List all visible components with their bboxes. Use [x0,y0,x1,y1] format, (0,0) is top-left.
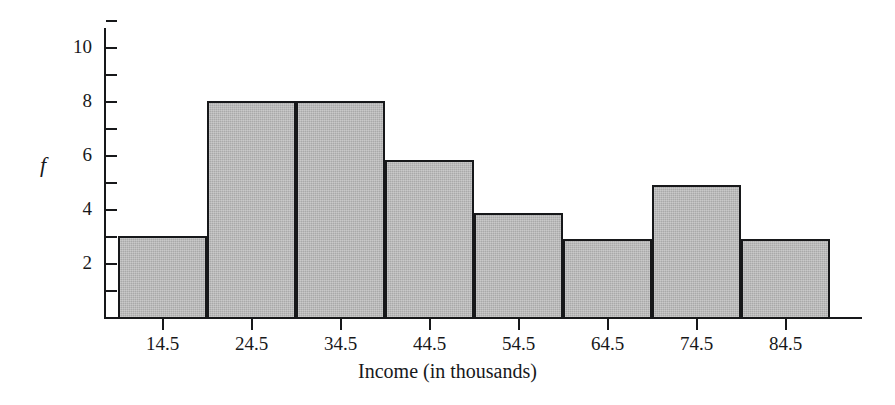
y-axis-tick [106,74,117,76]
y-axis-tick [106,155,117,157]
x-axis-tick [251,319,253,330]
y-axis-line [104,28,106,319]
x-axis-tick [162,319,164,330]
x-axis-tick [607,319,609,330]
histogram-bar [563,239,652,317]
y-axis-tick-label: 2 [52,253,92,272]
x-axis-tick [518,319,520,330]
y-axis-tick [106,47,117,49]
x-axis-tick-label: 34.5 [296,333,386,355]
x-axis-tick-label: 14.5 [118,333,208,355]
histogram-bar [652,185,741,317]
histogram-figure: 108642 14.524.534.544.554.564.574.584.5 … [0,0,895,405]
histogram-bar [741,239,830,317]
y-axis-tick [106,128,117,130]
y-axis-title: f [40,152,46,178]
histogram-bar [385,160,474,317]
x-axis-tick-label: 74.5 [652,333,742,355]
y-axis-tick-label: 4 [52,199,92,218]
x-axis-tick-label: 64.5 [563,333,653,355]
y-axis-tick-label: 8 [52,91,92,110]
x-axis-title: Income (in thousands) [0,360,895,383]
x-axis-tick [696,319,698,330]
x-axis-tick-label: 24.5 [207,333,297,355]
x-axis-tick-label: 54.5 [474,333,564,355]
histogram-bar [118,236,207,317]
y-axis-tick [106,263,117,265]
x-axis-tick-label: 84.5 [741,333,831,355]
y-axis-tick [106,209,117,211]
x-axis-tick-label: 44.5 [385,333,475,355]
histogram-bar [207,101,296,317]
y-axis-tick-label: 10 [52,37,92,56]
x-axis-line [104,317,862,319]
y-axis-tick [106,101,117,103]
y-axis-tick [106,290,117,292]
plot-area: 108642 14.524.534.544.554.564.574.584.5 [0,0,895,405]
x-axis-tick [429,319,431,330]
histogram-bar [296,101,385,317]
x-axis-tick [785,319,787,330]
y-axis-tick-label: 6 [52,145,92,164]
y-axis-tick [106,20,117,22]
y-axis-tick [106,182,117,184]
x-axis-tick [340,319,342,330]
histogram-bar [474,213,563,317]
y-axis-tick [106,236,117,238]
